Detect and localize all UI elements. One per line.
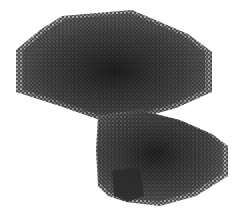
upper-block xyxy=(16,10,212,120)
dark-pillar xyxy=(112,168,144,202)
porous-lattice-render xyxy=(0,0,241,219)
